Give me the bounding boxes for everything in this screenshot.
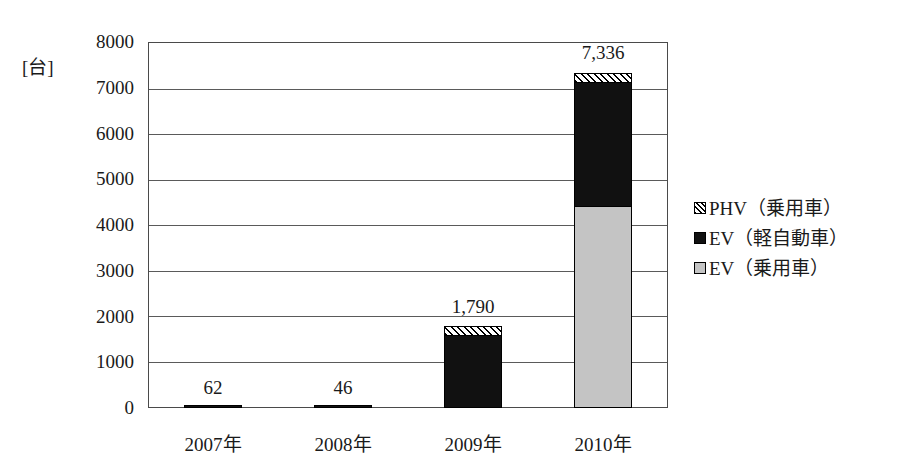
x-axis-tick-labels: 2007年 2008年 2009年 2010年 [148, 415, 668, 461]
bar-total-label-2008: 46 [334, 377, 353, 399]
legend-swatch-hatch-icon [694, 202, 706, 214]
bar-total-label-2007: 62 [204, 377, 223, 399]
x-tick-2007: 2007年 [148, 429, 278, 456]
y-tick-0: 0 [125, 397, 135, 419]
y-tick-6000: 6000 [96, 123, 134, 145]
stacked-bar-chart: [台] 8000 7000 6000 5000 4000 3000 2000 1… [0, 0, 904, 476]
bar-total-label-2010: 7,336 [582, 42, 625, 64]
bar-segment-ev-kei-2008[interactable] [314, 405, 372, 408]
y-tick-8000: 8000 [96, 31, 134, 53]
bar-stack-2010[interactable] [574, 73, 632, 408]
legend-item-ev-passenger[interactable]: EV（乗用車） [694, 253, 894, 283]
chart-legend: PHV（乗用車） EV（軽自動車） EV（乗用車） [694, 193, 894, 283]
bar-segment-ev-pass-2010[interactable] [574, 206, 632, 408]
legend-swatch-gray-icon [694, 262, 706, 274]
bar-segment-phv-2009[interactable] [444, 326, 502, 335]
bar-group-2008: 46 [278, 42, 408, 408]
y-tick-7000: 7000 [96, 77, 134, 99]
y-axis-tick-labels: 8000 7000 6000 5000 4000 3000 2000 1000 … [60, 42, 140, 408]
bar-segment-ev-kei-2007[interactable] [184, 405, 242, 408]
legend-label-ev-kei: EV（軽自動車） [709, 229, 848, 248]
x-tick-2010: 2010年 [538, 429, 668, 456]
bar-stack-2007[interactable] [184, 405, 242, 408]
bar-segment-phv-2010[interactable] [574, 73, 632, 82]
bar-group-2007: 62 [148, 42, 278, 408]
bars-layer: 62 46 1,790 7,336 [148, 42, 668, 408]
x-tick-2009: 2009年 [408, 429, 538, 456]
x-tick-2008: 2008年 [278, 429, 408, 456]
bar-total-label-2009: 1,790 [452, 296, 495, 318]
legend-label-phv-passenger: PHV（乗用車） [709, 199, 842, 218]
legend-label-ev-passenger: EV（乗用車） [709, 259, 829, 278]
y-tick-5000: 5000 [96, 168, 134, 190]
legend-swatch-black-icon [694, 232, 706, 244]
y-tick-3000: 3000 [96, 260, 134, 282]
bar-stack-2009[interactable] [444, 326, 502, 408]
legend-item-phv-passenger[interactable]: PHV（乗用車） [694, 193, 894, 223]
legend-item-ev-kei[interactable]: EV（軽自動車） [694, 223, 894, 253]
y-axis-unit-label: [台] [22, 52, 54, 79]
y-tick-1000: 1000 [96, 351, 134, 373]
bar-segment-ev-kei-2009[interactable] [444, 335, 502, 408]
bar-group-2010: 7,336 [538, 42, 668, 408]
bar-stack-2008[interactable] [314, 405, 372, 408]
bar-segment-ev-kei-2010[interactable] [574, 82, 632, 206]
y-tick-4000: 4000 [96, 214, 134, 236]
y-tick-2000: 2000 [96, 306, 134, 328]
bar-group-2009: 1,790 [408, 42, 538, 408]
